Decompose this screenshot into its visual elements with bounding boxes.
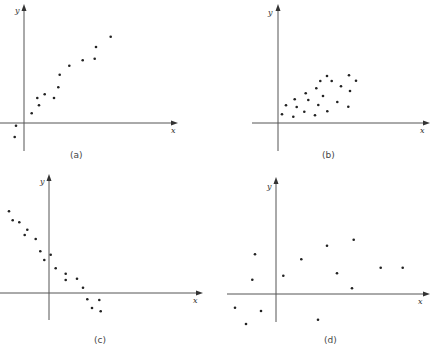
x-axis-label: x [418,297,423,306]
data-point [303,110,306,113]
data-point [347,105,350,108]
y-axis-label: y [266,182,272,191]
data-point [254,253,257,256]
data-point [251,278,254,281]
panel-label: (a) [70,150,83,160]
data-point [23,234,26,237]
data-point [351,287,354,290]
data-point [68,64,71,67]
x-axis-arrow-icon [196,291,203,296]
data-point [39,250,42,253]
data-point [43,93,46,96]
data-point [340,85,343,88]
panel-b: x y (b) [252,4,430,160]
data-point [349,90,352,93]
y-axis-label: y [267,8,273,17]
data-point [93,57,96,60]
data-point [13,136,16,139]
data-point [234,306,237,309]
data-point [314,114,317,117]
scatter-figure: x y (a) x y (b) x y (c) x y (d) [0,0,435,344]
panel-label: (b) [322,150,335,160]
x-axis-arrow-icon [423,292,430,297]
data-point [95,46,98,49]
data-points [281,74,358,118]
x-axis-label: x [171,126,176,135]
data-point [304,92,307,95]
data-point [282,274,285,277]
data-point [49,253,52,256]
data-point [109,35,112,38]
data-point [8,210,11,213]
data-point [307,99,310,102]
data-point [64,279,67,282]
panel-label: (c) [94,335,106,344]
data-point [300,258,303,261]
panel-label: (d) [324,335,337,344]
panel-a: x y (a) [0,4,178,160]
data-point [53,97,56,100]
x-axis-arrow-icon [171,121,178,126]
data-point [401,266,404,269]
data-point [285,104,288,107]
y-axis-arrow-icon [274,177,279,184]
data-point [293,98,296,101]
data-point [281,113,284,116]
data-point [336,272,339,275]
data-point [292,115,295,118]
data-point [260,310,263,313]
data-point [81,59,84,62]
data-point [355,79,358,82]
data-point [315,87,318,90]
x-axis-label: x [193,296,198,305]
panel-d: x y (d) [227,177,430,344]
data-point [36,97,39,100]
data-point [352,238,355,241]
data-point [43,259,46,262]
data-point [317,104,320,107]
y-axis-arrow-icon [47,174,52,181]
data-point [86,298,89,301]
data-point [57,86,60,89]
data-point [38,104,41,107]
data-point [319,80,322,83]
x-axis-arrow-icon [423,121,430,126]
data-point [245,323,248,326]
data-point [91,307,94,310]
data-point [30,112,33,115]
data-point [326,244,329,247]
data-point [18,221,21,224]
x-axis-label: x [420,126,425,135]
y-axis-label: y [14,6,20,15]
data-point [330,80,333,83]
data-point [26,228,29,231]
data-point [34,238,37,241]
data-point [58,73,61,76]
y-axis-arrow-icon [276,4,281,11]
data-point [322,95,325,98]
data-point [317,318,320,321]
data-point [15,124,18,127]
data-point [295,106,298,109]
data-point [326,110,329,113]
data-point [76,277,79,280]
data-point [379,266,382,269]
data-point [64,272,67,275]
data-points [234,238,404,325]
data-point [348,74,351,77]
data-point [326,75,329,78]
data-points [8,210,102,313]
data-point [11,219,14,222]
data-point [99,310,102,313]
y-axis-label: y [39,177,45,186]
y-axis-arrow-icon [22,4,27,11]
data-point [82,286,85,289]
data-point [54,267,57,270]
data-point [98,299,101,302]
data-point [336,101,339,104]
panel-c: x y (c) [0,174,203,344]
